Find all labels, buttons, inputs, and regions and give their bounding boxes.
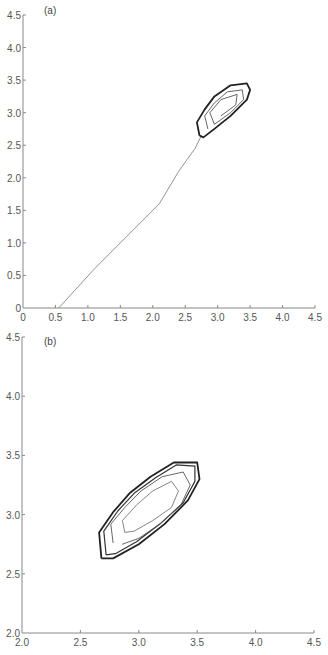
y-tick-label: 3.5 xyxy=(7,75,21,86)
x-tick-label: 4.5 xyxy=(308,312,322,323)
series-line xyxy=(111,472,190,544)
panel-label: (a) xyxy=(44,5,56,16)
x-tick-label: 2.5 xyxy=(73,637,87,648)
y-tick-label: 3.0 xyxy=(6,510,20,521)
y-tick-label: 3.0 xyxy=(7,108,21,119)
y-tick-label: 2.5 xyxy=(7,140,21,151)
y-tick-label: 4.0 xyxy=(6,391,20,402)
x-tick-label: 0.5 xyxy=(48,312,62,323)
x-tick-label: 1.0 xyxy=(81,312,95,323)
x-tick-label: 2.0 xyxy=(146,312,160,323)
y-tick-label: 2.0 xyxy=(7,173,21,184)
y-tick-label: 1.5 xyxy=(7,205,21,216)
x-tick-label: 2.5 xyxy=(178,312,192,323)
x-tick-label: 0 xyxy=(20,312,26,323)
y-tick-label: 0 xyxy=(15,303,21,314)
x-tick-label: 1.5 xyxy=(113,312,127,323)
chart-a-canvas: 00.51.01.52.02.53.03.54.04.500.51.01.52.… xyxy=(0,0,328,330)
x-tick-label: 3.5 xyxy=(190,637,204,648)
y-tick-label: 2.0 xyxy=(6,628,20,639)
y-tick-label: 3.5 xyxy=(6,450,20,461)
x-tick-label: 3.0 xyxy=(132,637,146,648)
series-line xyxy=(59,136,202,309)
y-tick-label: 4.5 xyxy=(7,10,21,21)
x-tick-label: 4.5 xyxy=(307,637,321,648)
x-tick-label: 3.0 xyxy=(211,312,225,323)
y-tick-label: 4.5 xyxy=(6,332,20,343)
phase-plot-a: 00.51.01.52.02.53.03.54.04.500.51.01.52.… xyxy=(0,0,328,330)
phase-plot-b: 2.02.53.03.54.04.52.02.53.03.54.04.5(b) xyxy=(0,330,328,655)
series-line xyxy=(122,481,178,532)
panel-label: (b) xyxy=(44,336,56,347)
series-line xyxy=(99,463,199,559)
x-tick-label: 4.0 xyxy=(276,312,290,323)
y-tick-label: 4.0 xyxy=(7,43,21,54)
x-tick-label: 4.0 xyxy=(249,637,263,648)
x-tick-label: 3.5 xyxy=(243,312,257,323)
y-tick-label: 2.5 xyxy=(6,569,20,580)
y-tick-label: 1.0 xyxy=(7,238,21,249)
chart-b-canvas: 2.02.53.03.54.04.52.02.53.03.54.04.5(b) xyxy=(0,330,328,655)
y-tick-label: 0.5 xyxy=(7,270,21,281)
